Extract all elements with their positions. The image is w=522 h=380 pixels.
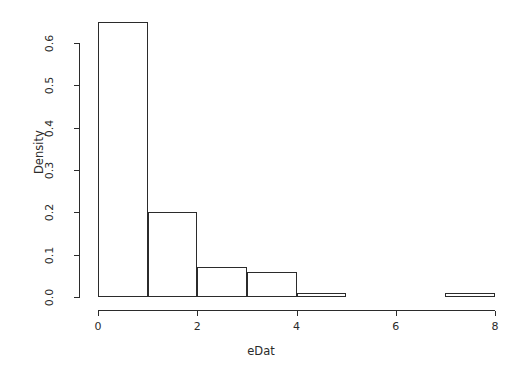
x-axis-tick-label: 8	[480, 320, 510, 333]
y-axis-tick-label: 0.0	[43, 281, 56, 315]
y-axis-tick	[74, 170, 79, 171]
plot-area: 0.00.10.20.30.40.50.6 02468 eDat Density	[0, 0, 522, 380]
x-axis-tick-label: 4	[282, 320, 312, 333]
x-axis-tick	[297, 311, 298, 316]
x-axis-title: eDat	[0, 344, 522, 358]
histogram-bar	[148, 212, 198, 297]
histogram-bar	[247, 272, 297, 297]
y-axis-tick	[74, 85, 79, 86]
histogram-bar	[297, 293, 347, 297]
x-axis-tick-label: 2	[182, 320, 212, 333]
y-axis-tick	[74, 128, 79, 129]
y-axis-tick-label: 0.5	[43, 69, 56, 103]
y-axis-line	[79, 43, 80, 298]
y-axis-tick-label: 0.2	[43, 196, 56, 230]
histogram-bar	[197, 267, 247, 297]
x-axis-tick	[396, 311, 397, 316]
x-axis-tick-label: 0	[83, 320, 113, 333]
histogram-bar	[445, 293, 495, 297]
x-axis-tick-label: 6	[381, 320, 411, 333]
y-axis-tick	[74, 212, 79, 213]
y-axis-tick-label: 0.6	[43, 27, 56, 61]
x-axis-tick	[495, 311, 496, 316]
histogram-figure: 0.00.10.20.30.40.50.6 02468 eDat Density	[0, 0, 522, 380]
y-axis-tick	[74, 43, 79, 44]
x-axis-tick	[197, 311, 198, 316]
y-axis-title: Density	[22, 140, 56, 174]
y-axis-tick-label: 0.1	[43, 238, 56, 272]
x-axis-tick	[98, 311, 99, 316]
histogram-bar	[98, 22, 148, 297]
y-axis-tick	[74, 255, 79, 256]
y-axis-tick	[74, 297, 79, 298]
